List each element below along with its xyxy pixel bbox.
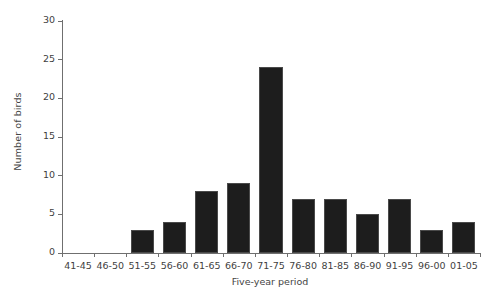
x-axis-tick-mark [384, 253, 385, 257]
bar [292, 199, 315, 253]
x-axis-tick-mark [448, 253, 449, 257]
x-axis-tick-mark [158, 253, 159, 257]
x-axis-category-label: 76-80 [287, 260, 319, 271]
x-axis-category-label: 56-60 [158, 260, 190, 271]
x-axis-category-label: 81-85 [319, 260, 351, 271]
x-axis-tick-mark [351, 253, 352, 257]
y-axis-tick-label: 0 [49, 246, 55, 257]
y-axis-title: Number of birds [8, 0, 26, 262]
x-axis-line [62, 253, 481, 254]
x-axis-tick-mark [191, 253, 192, 257]
bar [420, 230, 443, 253]
bar-chart-figure: Number of birds 051015202530 41-4546-505… [0, 0, 494, 302]
y-axis-tick-mark [58, 98, 62, 99]
x-axis-category-label: 41-45 [62, 260, 94, 271]
y-axis-tick-mark [58, 214, 62, 215]
bar [356, 214, 379, 253]
y-axis-tick-label: 30 [43, 14, 55, 25]
x-axis-category-label: 86-90 [351, 260, 383, 271]
x-axis-category-label: 46-50 [94, 260, 126, 271]
bar [452, 222, 475, 253]
y-axis-tick-label: 15 [43, 130, 55, 141]
x-axis-title: Five-year period [60, 276, 480, 287]
x-axis-category-label: 96-00 [416, 260, 448, 271]
bar [259, 67, 282, 253]
bar [388, 199, 411, 253]
plot-area: 051015202530 41-4546-5051-5556-6061-6566… [62, 21, 480, 253]
x-axis-category-label: 91-95 [384, 260, 416, 271]
y-axis-tick-label: 25 [43, 53, 55, 64]
x-axis-tick-mark [287, 253, 288, 257]
x-axis-tick-mark [223, 253, 224, 257]
y-axis-tick-mark [58, 175, 62, 176]
x-axis-tick-mark [416, 253, 417, 257]
y-axis-tick-mark [58, 59, 62, 60]
bar [227, 183, 250, 253]
x-axis-category-label: 71-75 [255, 260, 287, 271]
bar [163, 222, 186, 253]
bar [195, 191, 218, 253]
x-axis-tick-mark [126, 253, 127, 257]
y-axis-tick-label: 10 [43, 169, 55, 180]
x-axis-tick-mark [480, 253, 481, 257]
x-axis-category-label: 51-55 [126, 260, 158, 271]
bar [324, 199, 347, 253]
x-axis-category-label: 66-70 [223, 260, 255, 271]
x-axis-tick-mark [255, 253, 256, 257]
x-axis-tick-mark [94, 253, 95, 257]
y-axis-tick-label: 5 [49, 207, 55, 218]
x-axis-category-label: 61-65 [191, 260, 223, 271]
x-axis-tick-mark [62, 253, 63, 257]
y-axis-title-text: Number of birds [12, 92, 23, 170]
bar [131, 230, 154, 253]
x-axis-tick-mark [319, 253, 320, 257]
y-axis-tick-label: 20 [43, 91, 55, 102]
y-axis-tick-mark [58, 21, 62, 22]
y-axis-tick-mark [58, 137, 62, 138]
x-axis-category-label: 01-05 [448, 260, 480, 271]
